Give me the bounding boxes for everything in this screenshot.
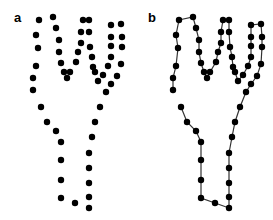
contour-point xyxy=(226,29,232,35)
point xyxy=(97,104,103,110)
contour-point xyxy=(229,54,235,60)
contour-point xyxy=(229,134,235,140)
contour-point xyxy=(198,177,204,183)
contour-point xyxy=(196,37,202,43)
point xyxy=(75,49,81,55)
contour-point xyxy=(178,104,184,110)
contour-point xyxy=(237,104,243,110)
point xyxy=(67,69,73,75)
contour-point xyxy=(226,205,232,211)
contour-point xyxy=(198,139,204,145)
contour-point xyxy=(201,69,207,75)
point xyxy=(78,29,84,35)
contour-point xyxy=(170,87,176,93)
contour-point xyxy=(258,21,264,27)
contour-point xyxy=(198,60,204,66)
contour-point xyxy=(190,14,196,20)
point xyxy=(61,69,67,75)
contour-point xyxy=(226,180,232,186)
point xyxy=(53,128,59,134)
point xyxy=(33,63,39,69)
point xyxy=(114,73,120,79)
point xyxy=(89,54,95,60)
point xyxy=(30,75,36,81)
point xyxy=(58,157,64,163)
point xyxy=(89,134,95,140)
point xyxy=(92,119,98,125)
contour-point xyxy=(226,194,232,200)
contour-point xyxy=(218,29,224,35)
point xyxy=(30,87,36,93)
point xyxy=(105,63,111,69)
point xyxy=(73,59,79,65)
point xyxy=(58,139,64,145)
contour-point xyxy=(226,165,232,171)
point xyxy=(119,44,125,50)
point xyxy=(72,200,78,206)
point xyxy=(86,205,92,211)
point xyxy=(86,150,92,156)
contour-point xyxy=(184,119,190,125)
contour-point xyxy=(220,17,226,23)
point xyxy=(36,17,42,23)
contour-point xyxy=(193,25,199,31)
point xyxy=(58,177,64,183)
point xyxy=(95,78,101,84)
contour-point xyxy=(196,49,202,55)
point xyxy=(44,119,50,125)
contour-point xyxy=(218,40,224,46)
point xyxy=(50,14,56,20)
contour-point xyxy=(193,128,199,134)
contour-point xyxy=(173,63,179,69)
contour-point xyxy=(248,54,254,60)
contour-point xyxy=(207,69,213,75)
contour-point xyxy=(248,43,254,49)
point-contour-figure xyxy=(0,0,273,220)
contour-point xyxy=(259,34,265,40)
contour-point xyxy=(245,63,251,69)
point xyxy=(108,81,114,87)
contour-point xyxy=(235,78,241,84)
contour-point xyxy=(226,150,232,156)
point xyxy=(33,32,39,38)
contour-point xyxy=(232,119,238,125)
contour-point xyxy=(204,75,210,81)
point xyxy=(103,89,109,95)
point xyxy=(80,17,86,23)
contour-point xyxy=(248,22,254,28)
panel-a-points xyxy=(30,14,125,211)
contour-point xyxy=(215,49,221,55)
point xyxy=(64,75,70,81)
point xyxy=(86,17,92,23)
point xyxy=(53,25,59,31)
point xyxy=(100,72,106,78)
point xyxy=(56,49,62,55)
point xyxy=(118,61,124,67)
contour-point xyxy=(258,61,264,67)
point xyxy=(86,194,92,200)
point xyxy=(58,60,64,66)
contour-point xyxy=(248,34,254,40)
point xyxy=(86,180,92,186)
point xyxy=(35,45,41,51)
point xyxy=(86,165,92,171)
point xyxy=(86,29,92,35)
contour-point xyxy=(213,59,219,65)
contour-point xyxy=(226,17,232,23)
point xyxy=(56,37,62,43)
contour-point xyxy=(170,75,176,81)
panel-b-contour xyxy=(170,14,265,211)
point xyxy=(108,54,114,60)
point xyxy=(58,195,64,201)
contour-point xyxy=(248,81,254,87)
contour-point xyxy=(176,17,182,23)
point xyxy=(119,34,125,40)
contour-point xyxy=(243,89,249,95)
contour-point xyxy=(254,73,260,79)
point xyxy=(118,21,124,27)
point xyxy=(78,40,84,46)
contour-point xyxy=(175,45,181,51)
point xyxy=(108,34,114,40)
contour-point xyxy=(173,32,179,38)
contour-point xyxy=(198,157,204,163)
